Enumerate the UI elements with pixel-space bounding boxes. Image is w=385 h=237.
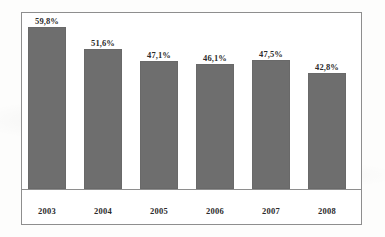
x-axis-tick-label: 2003: [19, 206, 75, 216]
bar-value-label: 47,5%: [243, 49, 299, 59]
x-axis-tick-label: 2005: [131, 206, 187, 216]
bar-value-label: 42,8%: [299, 62, 355, 72]
x-axis-tick-label: 2006: [187, 206, 243, 216]
bar-value-label: 59,8%: [19, 16, 75, 26]
x-axis-tick-label: 2007: [243, 206, 299, 216]
bar-rect[interactable]: [308, 73, 346, 189]
bar-rect[interactable]: [140, 61, 178, 189]
bar-rect[interactable]: [84, 49, 122, 189]
bar-value-label: 51,6%: [75, 38, 131, 48]
chart-frame: 59,8% 2003 51,6% 2004 47,1% 2005 46,1% 2…: [21, 12, 362, 225]
bar-value-label: 46,1%: [187, 53, 243, 63]
bar-rect[interactable]: [252, 60, 290, 189]
plot-area: 59,8% 2003 51,6% 2004 47,1% 2005 46,1% 2…: [22, 13, 361, 224]
bar-rect[interactable]: [28, 27, 66, 189]
bar-value-label: 47,1%: [131, 50, 187, 60]
x-axis-tick-label: 2004: [75, 206, 131, 216]
x-axis-tick-label: 2008: [299, 206, 355, 216]
x-axis-line: [22, 189, 361, 190]
bar-rect[interactable]: [196, 64, 234, 189]
